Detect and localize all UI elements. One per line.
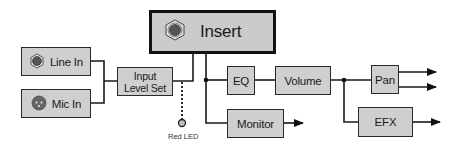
- input-level-set-block: Input Level Set: [117, 67, 173, 96]
- wire-volume-efx: [344, 80, 358, 122]
- monitor-block: Monitor: [227, 109, 284, 138]
- wire-mic-in: [90, 81, 104, 103]
- insert-block: Insert: [149, 10, 276, 54]
- red-led-label: Red LED: [168, 132, 198, 141]
- pan-block: Pan: [371, 65, 399, 94]
- red-led: [179, 120, 186, 127]
- efx-block: EFX: [358, 107, 413, 137]
- eq-label: EQ: [233, 75, 249, 87]
- quarter-inch-jack-icon: [29, 53, 45, 71]
- line-in-label: Line In: [50, 56, 83, 68]
- wire-insert-return: [206, 53, 227, 123]
- xlr-connector-icon: [31, 95, 47, 113]
- wire-insert-send: [172, 53, 193, 81]
- insert-jack-icon: [164, 19, 186, 46]
- junction-volume: [342, 78, 347, 83]
- monitor-label: Monitor: [237, 118, 274, 130]
- input-level-set-label: Input Level Set: [124, 70, 166, 94]
- efx-label: EFX: [375, 116, 397, 128]
- pan-label: Pan: [375, 74, 395, 86]
- insert-label: Insert: [200, 22, 241, 42]
- line-in-block: Line In: [21, 47, 91, 76]
- junction-insert: [204, 78, 209, 83]
- mic-in-block: Mic In: [21, 89, 91, 118]
- volume-label: Volume: [284, 75, 321, 87]
- volume-block: Volume: [275, 66, 331, 95]
- mic-in-label: Mic In: [52, 98, 81, 110]
- eq-block: EQ: [227, 66, 255, 95]
- wire-line-in: [90, 61, 117, 81]
